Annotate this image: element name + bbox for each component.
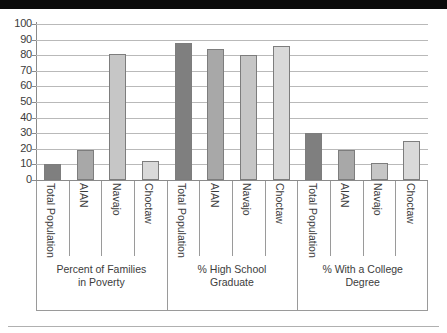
y-tick-label: 0 [2, 174, 32, 185]
group-label: Percent of Familiesin Poverty [36, 263, 167, 289]
category-separator [265, 181, 266, 256]
group-label-line1: % With a College [297, 263, 428, 276]
x-category-label: Total Population [175, 183, 189, 255]
category-separator [101, 181, 102, 256]
bar [77, 150, 94, 180]
bar [207, 49, 224, 180]
group-separator [297, 181, 298, 311]
y-tick-label: 70 [2, 65, 32, 76]
x-category-label: Choctaw [404, 183, 418, 255]
y-tick-label: 40 [2, 112, 32, 123]
x-category-label: Total Population [306, 183, 320, 255]
bar [273, 46, 290, 180]
bar [338, 150, 355, 180]
chart-page: 0102030405060708090100 Total PopulationA… [0, 0, 447, 333]
category-separator [69, 181, 70, 256]
category-separator [363, 181, 364, 256]
x-category-label: Total Population [44, 183, 58, 255]
category-separator [395, 181, 396, 256]
x-category-label: AIAN [208, 183, 222, 255]
y-axis-labels: 0102030405060708090100 [0, 24, 32, 180]
category-separator [330, 181, 331, 256]
x-category-label: Navajo [240, 183, 254, 255]
y-tick-label: 10 [2, 158, 32, 169]
y-tick-label: 80 [2, 49, 32, 60]
x-category-label: Choctaw [273, 183, 287, 255]
bar [142, 161, 159, 180]
bar [175, 43, 192, 180]
y-tick-label: 100 [2, 18, 32, 29]
group-label-line2: Graduate [167, 276, 298, 289]
panel-border-bottom [36, 310, 428, 311]
group-label-line2: in Poverty [36, 276, 167, 289]
group-label-line1: Percent of Families [36, 263, 167, 276]
plot-area [36, 24, 428, 180]
y-tick-label: 30 [2, 127, 32, 138]
bar [240, 55, 257, 180]
top-black-band [0, 0, 447, 9]
y-tick-label: 50 [2, 96, 32, 107]
x-category-label: Navajo [371, 183, 385, 255]
x-category-label: Choctaw [142, 183, 156, 255]
category-separator [232, 181, 233, 256]
group-label-line1: % High School [167, 263, 298, 276]
group-label: % High SchoolGraduate [167, 263, 298, 289]
panel-border-right [427, 181, 428, 311]
bar [305, 133, 322, 180]
bars-layer [36, 24, 428, 180]
category-label-panel: Total PopulationAIANNavajoChoctawPercent… [36, 181, 428, 311]
x-category-label: AIAN [77, 183, 91, 255]
category-separator [134, 181, 135, 256]
y-tick-label: 20 [2, 143, 32, 154]
bar [403, 141, 420, 180]
group-label: % With a CollegeDegree [297, 263, 428, 289]
footer-rule [8, 326, 439, 327]
y-tick-label: 60 [2, 80, 32, 91]
bar [109, 54, 126, 180]
bar [44, 164, 61, 180]
category-separator [199, 181, 200, 256]
group-label-line2: Degree [297, 276, 428, 289]
bar [371, 163, 388, 180]
panel-border-left [36, 181, 37, 311]
y-tick-label: 90 [2, 34, 32, 45]
x-category-label: AIAN [338, 183, 352, 255]
group-separator [167, 181, 168, 311]
x-category-label: Navajo [110, 183, 124, 255]
